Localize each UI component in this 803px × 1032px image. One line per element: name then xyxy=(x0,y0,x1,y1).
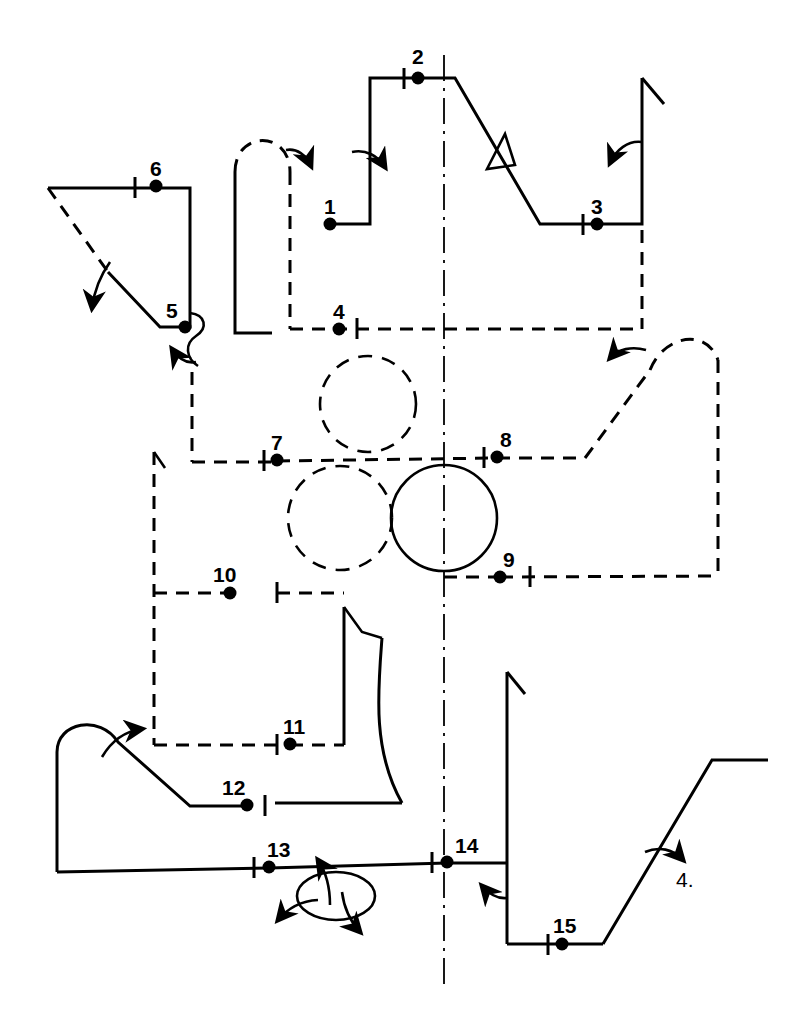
link-15-ramp xyxy=(603,760,768,944)
diagonal-dashed-left xyxy=(48,188,108,272)
right-post-hook xyxy=(642,78,664,104)
node-label-5: 5 xyxy=(166,300,178,321)
link-1-2 xyxy=(330,78,418,224)
node-label-15: 15 xyxy=(553,915,576,936)
joint-dot-10[interactable] xyxy=(224,587,237,600)
node-label-9: 9 xyxy=(503,549,515,570)
arch-dashed-top xyxy=(235,141,290,173)
reference-label-4: 4. xyxy=(676,869,694,890)
node-label-10: 10 xyxy=(213,564,236,585)
rotation-arrow-ramp xyxy=(645,849,683,860)
node-label-6: 6 xyxy=(150,158,162,179)
joint-dot-12[interactable] xyxy=(241,799,254,812)
node-label-3: 3 xyxy=(591,196,603,217)
shaft-mid-segment xyxy=(269,863,447,868)
node-label-8: 8 xyxy=(500,429,512,450)
joint-dot-7[interactable] xyxy=(271,454,284,467)
dashed-rail-node7-8 xyxy=(277,458,497,461)
node-label-1: 1 xyxy=(324,196,336,217)
rotation-arrow-node14 xyxy=(482,886,507,898)
right-post-top-hook xyxy=(507,672,525,694)
joint-dot-11[interactable] xyxy=(284,738,297,751)
diagram-canvas: 1 2 3 4 5 6 7 8 9 10 11 12 13 14 15 4. xyxy=(0,0,803,1032)
dashed-rail-9-right xyxy=(500,576,718,577)
node-label-7: 7 xyxy=(271,432,283,453)
blade-curve xyxy=(379,638,402,803)
frame-left-top-nick xyxy=(154,452,165,468)
bracket-left-outline xyxy=(57,725,247,872)
joint-dot-3[interactable] xyxy=(591,218,604,231)
joint-dot-9[interactable] xyxy=(494,571,507,584)
joint-dot-13[interactable] xyxy=(263,861,276,874)
rotation-arrow-right-arch xyxy=(610,348,646,358)
joint-dot-8[interactable] xyxy=(491,451,504,464)
shaft-left-segment xyxy=(57,868,269,872)
rotation-arrow-right-post xyxy=(610,142,642,163)
node-label-11: 11 xyxy=(283,716,305,737)
dashed-arch-right xyxy=(650,339,718,370)
joint-dot-14[interactable] xyxy=(441,856,454,869)
node-label-12: 12 xyxy=(222,777,245,798)
joint-dot-15[interactable] xyxy=(556,938,569,951)
arch-left-leg-solid xyxy=(235,172,272,333)
joint-dot-6[interactable] xyxy=(150,180,163,193)
node-label-13: 13 xyxy=(267,839,290,860)
node-label-2: 2 xyxy=(412,46,424,67)
dashed-circle-lower-left xyxy=(288,466,392,570)
node-label-4: 4 xyxy=(333,301,345,322)
dashed-diagonal-right xyxy=(585,370,650,458)
joint-dot-1[interactable] xyxy=(324,218,337,231)
blade-tip-notch xyxy=(344,607,382,638)
rotation-ellipse xyxy=(297,872,375,920)
joint-dot-5[interactable] xyxy=(179,321,192,334)
dashed-circle-upper xyxy=(320,356,416,452)
rotation-arrow-ellipse-down xyxy=(342,892,360,932)
joint-dot-2[interactable] xyxy=(412,72,425,85)
node-label-14: 14 xyxy=(455,835,478,856)
joint-dot-4[interactable] xyxy=(333,323,346,336)
rotation-arrow-arch xyxy=(286,150,311,166)
